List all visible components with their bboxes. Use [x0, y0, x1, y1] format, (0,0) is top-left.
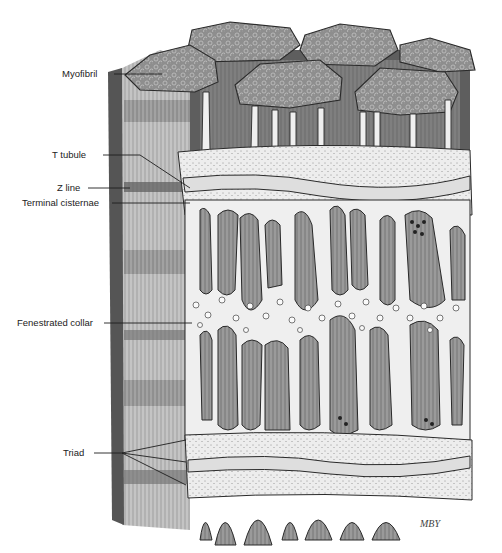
striated-fiber-face: [108, 50, 190, 530]
label-triad: Triad: [63, 448, 84, 458]
bottom-myofibrils: [200, 520, 400, 545]
illustration: MBY: [0, 0, 502, 553]
artist-signature: MBY: [419, 518, 441, 529]
sarcoplasmic-reticulum-network: [185, 200, 470, 440]
label-fenestrated-collar: Fenestrated collar: [17, 318, 93, 328]
label-myofibril: Myofibril: [62, 69, 97, 79]
lower-terminal-cisterna: [185, 432, 472, 500]
label-z-line: Z line: [57, 183, 80, 193]
label-terminal-cisternae: Terminal cisternae: [22, 198, 99, 208]
muscle-fiber-diagram: MBY Myofibril T tubule Z line Terminal c…: [0, 0, 502, 553]
label-t-tubule: T tubule: [52, 150, 86, 160]
